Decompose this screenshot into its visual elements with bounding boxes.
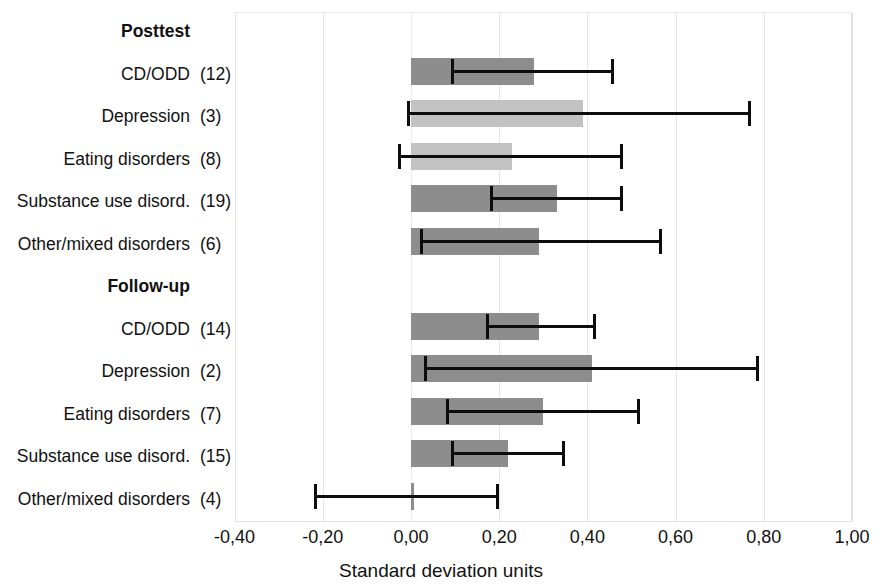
- error-bar: [446, 410, 640, 413]
- row-study-count: (14): [200, 321, 256, 339]
- row-label: CD/ODD: [0, 66, 190, 84]
- error-bar-cap-high: [496, 484, 499, 509]
- chart-root: PosttestCD/ODD(12)Depression(3)Eating di…: [0, 0, 882, 588]
- x-tick-label: -0,40: [190, 528, 280, 546]
- section-header-label: Follow-up: [0, 278, 190, 296]
- error-bar-cap-low: [407, 101, 410, 126]
- plot-area: [235, 12, 852, 522]
- x-axis-title: Standard deviation units: [0, 560, 882, 582]
- row-label: Other/mixed disorders: [0, 236, 190, 254]
- error-bar-cap-high: [637, 399, 640, 424]
- row-study-count: (12): [200, 66, 256, 84]
- gridline: [235, 13, 236, 521]
- error-bar-cap-low: [451, 59, 454, 84]
- error-bar: [407, 112, 751, 115]
- row-label: CD/ODD: [0, 321, 190, 339]
- x-tick-label: 0,20: [454, 528, 544, 546]
- row-label: Substance use disord.: [0, 448, 190, 466]
- error-bar: [451, 452, 566, 455]
- row-study-count: (19): [200, 193, 256, 211]
- error-bar-cap-high: [593, 314, 596, 339]
- error-bar-cap-low: [398, 144, 401, 169]
- row-study-count: (3): [200, 108, 256, 126]
- section-header-label: Posttest: [0, 23, 190, 41]
- x-tick-label: -0,20: [278, 528, 368, 546]
- error-bar: [486, 325, 596, 328]
- error-bar-cap-low: [446, 399, 449, 424]
- row-study-count: (6): [200, 236, 256, 254]
- error-bar: [424, 367, 759, 370]
- error-bar-cap-high: [562, 441, 565, 466]
- error-bar-cap-high: [756, 356, 759, 381]
- error-bar-cap-low: [486, 314, 489, 339]
- error-bar-cap-low: [490, 186, 493, 211]
- x-tick-label: 0,00: [366, 528, 456, 546]
- row-label: Substance use disord.: [0, 193, 190, 211]
- row-label: Depression: [0, 108, 190, 126]
- error-bar: [314, 495, 499, 498]
- row-label: Eating disorders: [0, 151, 190, 169]
- row-label: Eating disorders: [0, 406, 190, 424]
- error-bar-cap-high: [748, 101, 751, 126]
- gridline: [587, 13, 588, 521]
- x-tick-label: 0,80: [719, 528, 809, 546]
- error-bar-cap-high: [620, 144, 623, 169]
- x-tick-label: 0,60: [631, 528, 721, 546]
- error-bar-cap-high: [659, 229, 662, 254]
- gridline: [323, 13, 324, 521]
- x-tick-label: 0,40: [542, 528, 632, 546]
- row-label: Other/mixed disorders: [0, 491, 190, 509]
- x-tick-label: 1,00: [807, 528, 882, 546]
- error-bar: [420, 240, 663, 243]
- error-bar-cap-low: [424, 356, 427, 381]
- error-bar-cap-low: [314, 484, 317, 509]
- error-bar-cap-high: [611, 59, 614, 84]
- row-study-count: (4): [200, 491, 256, 509]
- error-bar-cap-high: [620, 186, 623, 211]
- error-bar-cap-low: [420, 229, 423, 254]
- error-bar-cap-low: [451, 441, 454, 466]
- error-bar: [398, 155, 623, 158]
- error-bar: [451, 70, 614, 73]
- row-label: Depression: [0, 363, 190, 381]
- gridline: [764, 13, 765, 521]
- gridline: [852, 13, 853, 521]
- row-study-count: (15): [200, 448, 256, 466]
- error-bar: [490, 197, 622, 200]
- row-study-count: (2): [200, 363, 256, 381]
- row-study-count: (8): [200, 151, 256, 169]
- gridline: [676, 13, 677, 521]
- row-study-count: (7): [200, 406, 256, 424]
